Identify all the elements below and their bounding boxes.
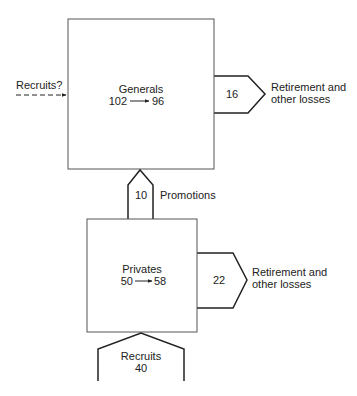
generals-inflow-arrow: Recruits?	[16, 79, 66, 95]
generals-outflow-arrow: 16	[214, 76, 265, 113]
privates-title: Privates	[122, 263, 162, 275]
generals-end-value: 96	[152, 95, 164, 107]
generals-title: Generals	[119, 83, 164, 95]
privates-inflow-label: Recruits	[121, 350, 162, 362]
privates-stock-box: Privates 50 58	[87, 219, 197, 332]
promotions-arrow: 10	[128, 170, 153, 219]
promotions-label: Promotions	[160, 189, 216, 201]
stock-flow-diagram: 16 Retirement and other losses Generals …	[0, 0, 357, 396]
privates-outflow-label-line1: Retirement and	[252, 266, 327, 278]
privates-start-value: 50	[121, 275, 133, 287]
privates-end-value: 58	[154, 275, 166, 287]
generals-outflow-value: 16	[226, 88, 238, 100]
generals-start-value: 102	[109, 95, 127, 107]
generals-inflow-label: Recruits?	[16, 79, 62, 91]
promotions-value: 10	[135, 189, 147, 201]
generals-outflow-label-line1: Retirement and	[271, 81, 346, 93]
generals-stock-box: Generals 102 96	[68, 19, 214, 169]
privates-inflow-arrow: Recruits 40	[98, 333, 184, 381]
privates-outflow-value: 22	[213, 274, 225, 286]
privates-inflow-value: 40	[135, 362, 147, 374]
privates-outflow-label-line2: other losses	[252, 278, 312, 290]
privates-outflow-arrow: 22	[197, 253, 247, 308]
generals-outflow-label-line2: other losses	[271, 93, 331, 105]
